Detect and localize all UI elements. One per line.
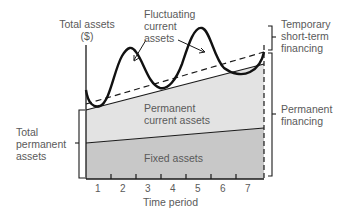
fluctuating-current-assets-label: Fluctuating current assets — [144, 8, 195, 44]
temporary-financing-label: Temporary short-term financing — [281, 18, 331, 54]
x-tick-1: 1 — [95, 183, 101, 194]
temporary-financing-bracket — [268, 26, 276, 50]
permanent-current-assets-label: Permanent current assets — [144, 102, 210, 126]
x-tick-5: 5 — [195, 183, 201, 194]
permanent-financing-bracket — [268, 53, 276, 176]
x-tick-4: 4 — [170, 183, 176, 194]
fixed-assets-label: Fixed assets — [144, 152, 203, 164]
total-permanent-assets-bracket — [75, 110, 85, 178]
x-tick-6: 6 — [220, 183, 226, 194]
x-tick-3: 3 — [145, 183, 151, 194]
y-axis-label: Total assets ($) — [52, 18, 122, 42]
x-tick-2: 2 — [120, 183, 126, 194]
x-axis-label: Time period — [143, 196, 198, 208]
permanent-financing-label: Permanent financing — [281, 103, 332, 127]
x-tick-7: 7 — [245, 183, 251, 194]
total-permanent-assets-label: Total permanent assets — [16, 126, 66, 162]
